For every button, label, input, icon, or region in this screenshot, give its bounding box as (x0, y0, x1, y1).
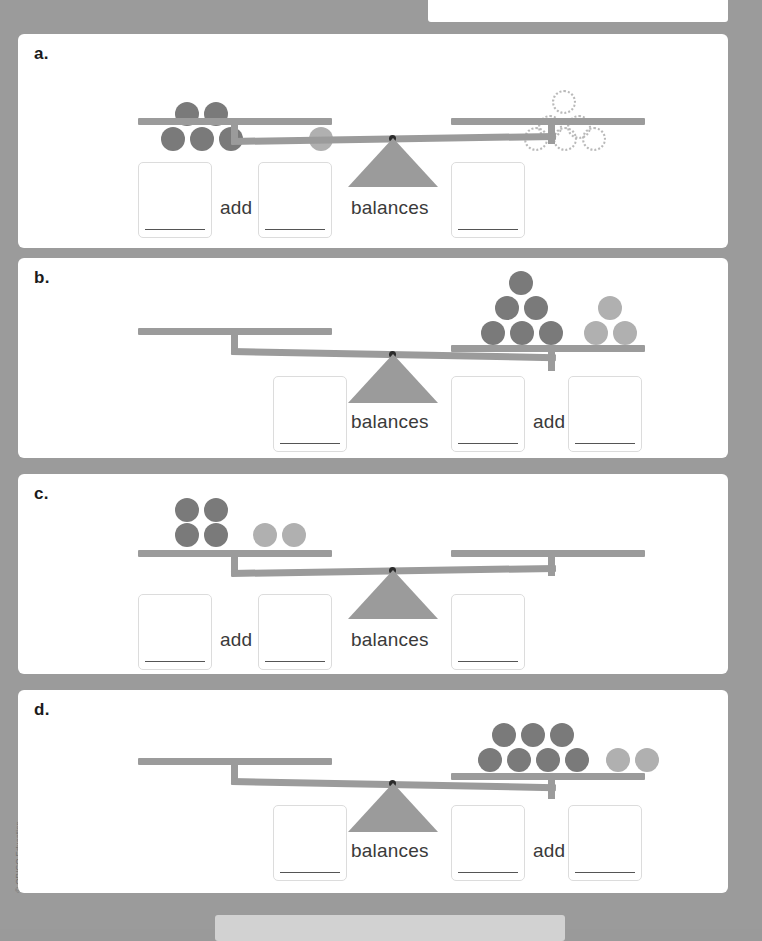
counter-light (253, 523, 277, 547)
counter-light (606, 748, 630, 772)
counter-dark (161, 127, 185, 151)
balance-fulcrum (348, 570, 438, 619)
answer-box[interactable] (138, 162, 212, 238)
answer-box[interactable] (451, 805, 525, 881)
counter-dark (492, 723, 516, 747)
label-add: add (220, 629, 252, 651)
answer-box[interactable] (451, 594, 525, 670)
balance-fulcrum (348, 354, 438, 403)
label-balances: balances (351, 411, 429, 433)
top-page-edge (428, 0, 728, 22)
counter-dark (204, 523, 228, 547)
counter-dark (507, 748, 531, 772)
answer-box[interactable] (138, 594, 212, 670)
counter-dark (524, 296, 548, 320)
counter-dark (175, 498, 199, 522)
question-panel-d: d. balances add (18, 690, 728, 893)
counter-light (584, 321, 608, 345)
counter-light (613, 321, 637, 345)
counter-dark (550, 723, 574, 747)
counter-outline (553, 127, 577, 151)
label-add: add (220, 197, 252, 219)
label-balances: balances (351, 197, 429, 219)
label-add: add (533, 840, 565, 862)
counter-light (282, 523, 306, 547)
counter-dark (481, 321, 505, 345)
balance-fulcrum (348, 138, 438, 187)
counter-dark (190, 127, 214, 151)
counter-dark (539, 321, 563, 345)
counter-dark (521, 723, 545, 747)
counter-dark (509, 271, 533, 295)
counter-dark (478, 748, 502, 772)
question-panel-b: b. balances add (18, 258, 728, 458)
counter-dark (565, 748, 589, 772)
counter-dark (536, 748, 560, 772)
counter-outline (552, 90, 576, 114)
counter-light (598, 296, 622, 320)
answer-box[interactable] (451, 162, 525, 238)
answer-box[interactable] (568, 805, 642, 881)
counter-light (635, 748, 659, 772)
question-panel-c: c. add balances (18, 474, 728, 674)
label-balances: balances (351, 629, 429, 651)
question-panel-a: a. add balance (18, 34, 728, 248)
answer-box[interactable] (451, 376, 525, 452)
counter-dark (175, 523, 199, 547)
label-balances: balances (351, 840, 429, 862)
counter-dark (510, 321, 534, 345)
balance-fulcrum (348, 783, 438, 832)
counter-dark (495, 296, 519, 320)
answer-box[interactable] (273, 805, 347, 881)
counter-outline (582, 127, 606, 151)
answer-box[interactable] (258, 162, 332, 238)
answer-box[interactable] (568, 376, 642, 452)
label-add: add (533, 411, 565, 433)
counter-dark (204, 498, 228, 522)
answer-box[interactable] (273, 376, 347, 452)
bottom-page-edge (215, 915, 565, 941)
answer-box[interactable] (258, 594, 332, 670)
